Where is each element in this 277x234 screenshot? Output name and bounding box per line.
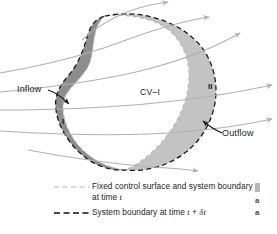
light-gray-dashed-line-icon: [54, 181, 92, 192]
caption-fragment: a a: [255, 183, 277, 219]
legend-italic-delta-t: δt: [199, 207, 205, 217]
legend-italic-t: t: [120, 192, 122, 202]
legend-text-part-1: Fixed control surface and system boundar…: [92, 181, 253, 202]
legend-item-control-surface: Fixed control surface and system boundar…: [54, 181, 254, 202]
inflow-label: Inflow: [17, 84, 41, 94]
legend: Fixed control surface and system boundar…: [54, 181, 254, 223]
caption-bar-glyph: [255, 183, 260, 192]
region-two-label: II: [208, 82, 212, 91]
control-volume-label: CV–I: [140, 88, 160, 98]
caption-fragment-line-2: a: [255, 207, 277, 219]
region-one-label: I: [62, 117, 64, 126]
legend-plus: +: [190, 207, 200, 217]
legend-item-system-boundary: System boundary at time t + δt: [54, 207, 254, 218]
figure-control-volume-diagram: Inflow Outflow CV–I I II Fixed control s…: [0, 0, 277, 234]
caption-fragment-line-1: a: [255, 195, 277, 207]
legend-text-part-2: System boundary at time: [92, 207, 187, 217]
legend-label-system-boundary: System boundary at time t + δt: [92, 207, 206, 218]
black-dashed-line-icon: [54, 207, 92, 218]
legend-label-control-surface: Fixed control surface and system boundar…: [92, 181, 254, 202]
outflow-label: Outflow: [222, 128, 254, 138]
